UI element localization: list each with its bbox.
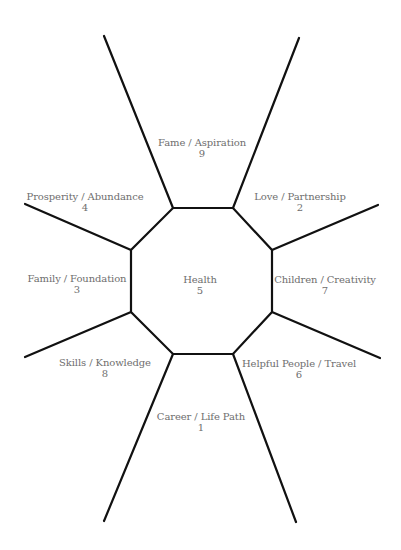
divider-top-left: [104, 36, 173, 208]
area-children: Children / Creativity 7: [274, 274, 376, 296]
area-helpful-people-number: 6: [242, 369, 356, 380]
area-love-number: 2: [254, 202, 346, 213]
area-prosperity: Prosperity / Abundance 4: [27, 191, 144, 213]
area-family: Family / Foundation 3: [28, 273, 127, 295]
divider-top-right: [233, 38, 299, 208]
area-health-number: 5: [183, 285, 217, 296]
area-fame-name: Fame / Aspiration: [158, 137, 246, 148]
divider-bottom-left: [104, 354, 173, 521]
area-helpful-people: Helpful People / Travel 6: [242, 358, 356, 380]
area-skills-number: 8: [59, 368, 151, 379]
divider-right-lower: [272, 312, 380, 358]
area-love: Love / Partnership 2: [254, 191, 346, 213]
area-prosperity-number: 4: [27, 202, 144, 213]
area-family-name: Family / Foundation: [28, 273, 127, 284]
area-health-name: Health: [183, 274, 217, 285]
area-fame: Fame / Aspiration 9: [158, 137, 246, 159]
area-skills: Skills / Knowledge 8: [59, 357, 151, 379]
area-skills-name: Skills / Knowledge: [59, 357, 151, 368]
area-children-name: Children / Creativity: [274, 274, 376, 285]
area-fame-number: 9: [158, 148, 246, 159]
area-career: Career / Life Path 1: [157, 411, 245, 433]
divider-left-lower: [25, 312, 131, 357]
area-prosperity-name: Prosperity / Abundance: [27, 191, 144, 202]
area-health: Health 5: [183, 274, 217, 296]
area-family-number: 3: [28, 284, 127, 295]
area-children-number: 7: [274, 285, 376, 296]
area-career-number: 1: [157, 422, 245, 433]
area-career-name: Career / Life Path: [157, 411, 245, 422]
area-helpful-people-name: Helpful People / Travel: [242, 358, 356, 369]
area-love-name: Love / Partnership: [254, 191, 346, 202]
